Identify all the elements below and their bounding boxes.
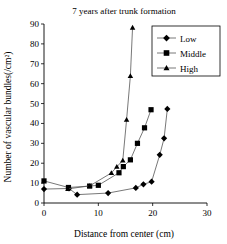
y-tick-label: 10 — [30, 178, 40, 188]
data-point — [148, 107, 153, 112]
series-middle — [41, 107, 153, 190]
x-axis-ticks: 0102030 — [42, 203, 212, 218]
data-point — [128, 157, 133, 162]
y-tick-label: 80 — [30, 39, 40, 49]
chart-container: 7 years after trunk formation Distance f… — [0, 0, 227, 244]
y-tick-label: 60 — [30, 79, 40, 89]
y-tick-label: 0 — [35, 198, 40, 208]
data-point — [135, 141, 140, 146]
data-point — [96, 183, 101, 188]
data-point — [41, 186, 47, 192]
legend-label: Middle — [180, 49, 206, 59]
series-low — [41, 106, 171, 198]
data-point — [128, 73, 134, 78]
data-point — [116, 170, 121, 175]
data-point — [130, 25, 136, 30]
x-axis-title: Distance from center (cm) — [74, 229, 174, 240]
x-tick-label: 10 — [94, 208, 104, 218]
data-point — [157, 152, 163, 158]
data-point — [74, 192, 80, 198]
data-point — [140, 181, 146, 187]
legend-label: High — [180, 64, 199, 74]
data-point — [142, 125, 147, 130]
data-point — [41, 178, 46, 183]
y-tick-label: 30 — [30, 138, 40, 148]
y-tick-label: 50 — [30, 99, 40, 109]
legend-label: Low — [180, 34, 197, 44]
y-tick-label: 90 — [30, 19, 40, 29]
series-layer — [41, 25, 171, 198]
data-point — [121, 164, 126, 169]
data-point — [105, 190, 111, 196]
y-axis-title: Number of vascular bundles(/cm²) — [3, 52, 14, 183]
y-tick-label: 70 — [30, 59, 40, 69]
x-tick-label: 20 — [148, 208, 158, 218]
chart-legend: LowMiddleHigh — [152, 26, 220, 76]
chart-svg: 7 years after trunk formation Distance f… — [0, 0, 227, 244]
y-tick-label: 20 — [30, 158, 40, 168]
legend-marker-square — [164, 50, 170, 56]
data-point — [148, 179, 154, 185]
x-tick-label: 0 — [42, 208, 47, 218]
x-tick-label: 30 — [203, 208, 213, 218]
y-tick-label: 40 — [30, 118, 40, 128]
data-point — [133, 185, 139, 191]
data-point — [124, 117, 130, 122]
data-point — [161, 135, 167, 141]
data-point — [164, 106, 170, 112]
chart-title: 7 years after trunk formation — [72, 6, 176, 16]
data-point — [120, 158, 126, 163]
